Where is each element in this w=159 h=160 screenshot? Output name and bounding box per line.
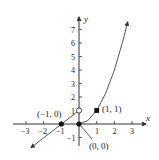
y-tick-label: 4 — [71, 66, 75, 75]
x-tick-label: −2 — [39, 127, 48, 136]
label-neg1-0: (−1, 0) — [37, 109, 62, 119]
point-1-1 — [94, 108, 99, 113]
point-neg1-0 — [59, 121, 64, 126]
y-tick-label: 7 — [71, 26, 75, 35]
open-point-0-1 — [76, 108, 81, 113]
x-tick-label: 2 — [113, 127, 117, 136]
y-tick-label: 3 — [71, 80, 75, 89]
leader-line-0-0 — [80, 125, 92, 139]
piecewise-function-graph: −3 −2 −1 1 2 3 x 7 6 5 4 3 2 1 −1 y — [0, 0, 159, 160]
x-tick-label: 3 — [130, 127, 134, 136]
label-1-1: (1, 1) — [102, 104, 122, 114]
x-axis-label: x — [145, 113, 150, 123]
y-tick-label: −1 — [67, 134, 76, 143]
x-tick-label: 1 — [95, 127, 99, 136]
y-tick-label: 5 — [71, 53, 75, 62]
label-0-0: (0, 0) — [89, 141, 109, 151]
x-tick-label: −3 — [21, 127, 30, 136]
y-tick-label: 2 — [71, 93, 75, 102]
y-axis-label: y — [83, 14, 88, 24]
y-tick-label: 6 — [71, 39, 75, 48]
x-tick-label: −1 — [56, 127, 65, 136]
y-axis: 7 6 5 4 3 2 1 −1 y — [67, 14, 88, 146]
